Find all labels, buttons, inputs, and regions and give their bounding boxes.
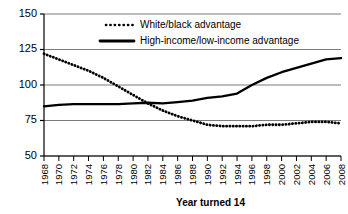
x-axis-ticks: 1968197019721974197619781980198219841986… <box>39 156 347 185</box>
x-tick-label-1972: 1972 <box>68 164 79 185</box>
x-tick-label-1982: 1982 <box>142 164 153 185</box>
x-tick-label-1986: 1986 <box>172 164 183 185</box>
x-tick-label-1980: 1980 <box>128 164 139 185</box>
x-tick-label-1978: 1978 <box>113 164 124 185</box>
series-line-2 <box>44 58 341 106</box>
line-chart: 5075100125150196819701972197419761978198… <box>0 0 348 214</box>
legend-label-2: High-income/low-income advantage <box>140 35 299 46</box>
chart-container: 5075100125150196819701972197419761978198… <box>0 0 348 214</box>
x-tick-label-1990: 1990 <box>202 164 213 185</box>
x-tick-label-1992: 1992 <box>217 164 228 185</box>
legend-label-1: White/black advantage <box>140 19 242 30</box>
y-tick-label-100: 100 <box>19 78 37 90</box>
x-tick-label-1970: 1970 <box>53 164 64 185</box>
x-tick-label-1974: 1974 <box>83 164 94 185</box>
x-tick-label-2008: 2008 <box>336 164 347 185</box>
y-tick-label-150: 150 <box>19 7 37 19</box>
x-tick-label-1998: 1998 <box>261 164 272 185</box>
x-tick-label-2002: 2002 <box>291 164 302 185</box>
x-tick-label-2004: 2004 <box>306 164 317 185</box>
x-tick-label-2006: 2006 <box>321 164 332 185</box>
x-tick-label-1996: 1996 <box>246 164 257 185</box>
x-tick-label-1994: 1994 <box>232 164 243 185</box>
legend: White/black advantageHigh-income/low-inc… <box>100 19 299 46</box>
y-tick-label-125: 125 <box>19 42 37 54</box>
x-tick-label-2000: 2000 <box>276 164 287 185</box>
x-tick-label-1968: 1968 <box>39 164 50 185</box>
y-tick-label-50: 50 <box>25 149 37 161</box>
x-tick-label-1988: 1988 <box>187 164 198 185</box>
x-tick-label-1984: 1984 <box>157 164 168 185</box>
y-axis-ticks: 5075100125150 <box>19 7 44 161</box>
series-line-1 <box>44 54 341 126</box>
y-tick-label-75: 75 <box>25 113 37 125</box>
x-tick-label-1976: 1976 <box>98 164 109 185</box>
x-axis-title: Year turned 14 <box>176 197 245 208</box>
